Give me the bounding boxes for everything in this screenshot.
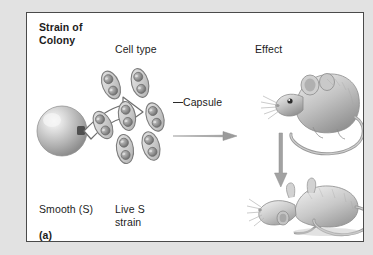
header-cell-type: Cell type xyxy=(115,43,157,56)
label-live-s-strain: Live S strain xyxy=(115,203,145,228)
header-strain-of-colony: Strain of Colony xyxy=(39,21,83,47)
dead-mouse xyxy=(247,178,364,236)
curved-arrow-colony-to-cells xyxy=(84,97,143,139)
capsule-leader-line xyxy=(173,102,183,103)
vertical-arrow-live-to-dead-mouse xyxy=(275,133,288,187)
header-effect: Effect xyxy=(255,43,282,56)
figure-panel: Strain of Colony Cell type Effect Capsul… xyxy=(26,12,364,242)
figure-part-label: (a) xyxy=(39,229,52,242)
encapsulated-diplococci xyxy=(89,67,167,165)
smooth-colony-sphere xyxy=(37,106,87,156)
horizontal-arrow-cells-to-mouse xyxy=(173,132,237,141)
label-capsule: Capsule xyxy=(183,96,222,109)
label-smooth-s: Smooth (S) xyxy=(39,203,93,216)
live-mouse xyxy=(261,74,363,154)
figure-container: Strain of Colony Cell type Effect Capsul… xyxy=(0,0,373,255)
